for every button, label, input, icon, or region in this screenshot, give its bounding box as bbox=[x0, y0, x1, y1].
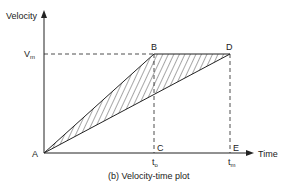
point-d-label: D bbox=[226, 42, 233, 52]
velocity-time-diagram: Velocity Time Vm A B C D E to tm (b) Vel… bbox=[0, 0, 287, 189]
x-axis-label: Time bbox=[258, 149, 278, 159]
point-e-label: E bbox=[233, 143, 239, 153]
x-axis-arrow-icon bbox=[246, 150, 254, 156]
point-b-label: B bbox=[151, 42, 157, 52]
t-m-label: tm bbox=[228, 157, 236, 168]
y-axis-arrow-icon bbox=[41, 10, 47, 18]
point-a-label: A bbox=[32, 149, 38, 159]
point-c-label: C bbox=[157, 143, 164, 153]
y-axis-label: Velocity bbox=[6, 11, 38, 21]
vm-label: Vm bbox=[24, 49, 35, 60]
diagram-caption: (b) Velocity-time plot bbox=[108, 171, 190, 181]
shaded-region bbox=[44, 54, 230, 153]
t-o-label: to bbox=[152, 157, 159, 168]
